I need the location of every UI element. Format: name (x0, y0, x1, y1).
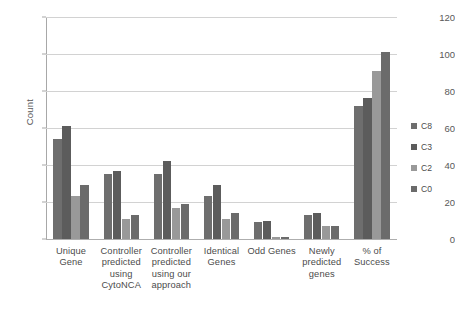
bar (80, 185, 88, 239)
bar (71, 196, 79, 239)
bar (163, 161, 171, 239)
legend-item-c0[interactable]: C0 (411, 178, 455, 199)
x-category-label-line: genes (293, 269, 351, 280)
bar (372, 71, 380, 239)
bar-group (96, 17, 146, 239)
bar (254, 222, 262, 239)
x-category-label-line: Success (343, 257, 401, 268)
bar (304, 215, 312, 239)
legend-swatch-icon (411, 123, 417, 129)
bar (281, 237, 289, 239)
bar (104, 174, 112, 239)
legend-swatch-icon (411, 144, 417, 150)
bar-group (347, 17, 397, 239)
x-category-label-line: % of (343, 246, 401, 257)
bar (354, 106, 362, 239)
bar (181, 204, 189, 239)
bar-group (46, 17, 96, 239)
bar (213, 185, 221, 239)
bar (154, 174, 162, 239)
x-category-label-line: using our (142, 269, 200, 280)
legend-item-c2[interactable]: C2 (411, 157, 455, 178)
bar (263, 221, 271, 240)
x-category-label-line: Genes (192, 257, 250, 268)
legend-label: C3 (421, 142, 432, 152)
legend-label: C0 (421, 184, 432, 194)
y-tick-label-100: 100 (415, 49, 455, 60)
bar-group (146, 17, 196, 239)
bar (231, 213, 239, 239)
bar (204, 196, 212, 239)
bar (53, 139, 61, 239)
y-tick-label-120: 120 (415, 12, 455, 23)
bar (381, 52, 389, 239)
legend-swatch-icon (411, 186, 417, 192)
bar (122, 219, 130, 239)
legend-label: C2 (421, 163, 432, 173)
legend: C8C3C2C0 (411, 115, 455, 199)
legend-item-c3[interactable]: C3 (411, 136, 455, 157)
bar-chart: Count 020406080100120 UniqueGeneControll… (0, 0, 455, 310)
y-tick-label-80: 80 (415, 86, 455, 97)
bar (222, 219, 230, 239)
bar (113, 171, 121, 239)
bar (331, 226, 339, 239)
gridline-0 (46, 239, 397, 240)
bar (172, 208, 180, 239)
bar (62, 126, 70, 239)
bar (322, 226, 330, 239)
y-tick-label-0: 0 (415, 234, 455, 245)
bar-group (297, 17, 347, 239)
bar-group (247, 17, 297, 239)
bar (313, 213, 321, 239)
x-category-label-line: approach (142, 280, 200, 291)
bar (272, 237, 280, 239)
plot-inner (46, 17, 397, 239)
y-axis-title: Count (24, 82, 40, 142)
legend-item-c8[interactable]: C8 (411, 115, 455, 136)
legend-label: C8 (421, 121, 432, 131)
x-category-label: % ofSuccess (343, 246, 401, 269)
bar-group (196, 17, 246, 239)
legend-swatch-icon (411, 165, 417, 171)
bar (363, 98, 371, 239)
plot-area (46, 17, 397, 239)
bar (131, 215, 139, 239)
